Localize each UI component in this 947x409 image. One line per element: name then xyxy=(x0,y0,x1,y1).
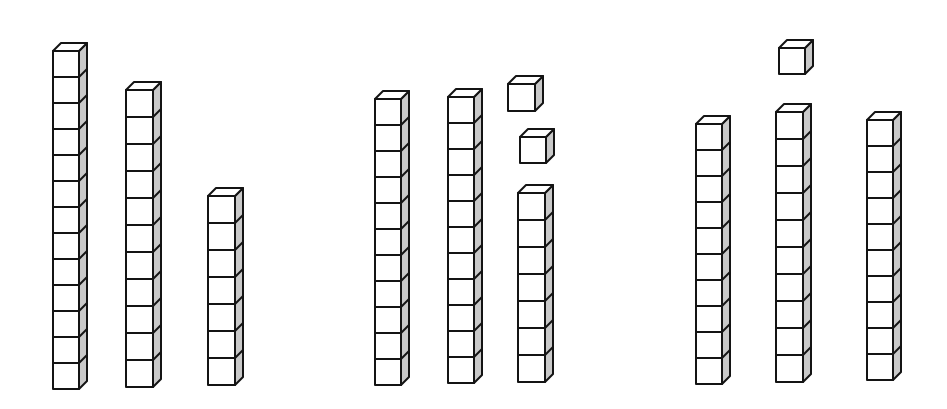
cube-tower-2 xyxy=(448,89,482,383)
group-2 xyxy=(375,76,554,385)
cube-tower-1 xyxy=(53,43,87,389)
cube-tower-2 xyxy=(776,104,811,382)
cube-front-face xyxy=(508,84,535,111)
cube-front-face xyxy=(208,196,235,385)
cube-front-face xyxy=(53,51,79,389)
cube-front-face xyxy=(448,97,474,383)
group-1 xyxy=(53,43,243,389)
cube-towers-diagram xyxy=(0,0,947,409)
cube-front-face xyxy=(779,48,805,74)
cube-tower-3 xyxy=(867,112,901,380)
group-3 xyxy=(696,40,901,384)
cube-front-face xyxy=(126,90,153,387)
cube-front-face xyxy=(518,193,545,382)
loose-cube-2 xyxy=(520,129,554,163)
cube-front-face xyxy=(375,99,401,385)
cube-side-face xyxy=(474,89,482,383)
cube-side-face xyxy=(401,91,409,385)
cube-tower-2 xyxy=(126,82,161,387)
cube-tower-3 xyxy=(518,185,553,382)
cube-tower-1 xyxy=(696,116,730,384)
cube-tower-3 xyxy=(208,188,243,385)
loose-cube-1 xyxy=(779,40,813,74)
loose-cube-1 xyxy=(508,76,543,111)
cube-side-face xyxy=(153,82,161,387)
cube-front-face xyxy=(520,137,546,163)
cube-tower-1 xyxy=(375,91,409,385)
